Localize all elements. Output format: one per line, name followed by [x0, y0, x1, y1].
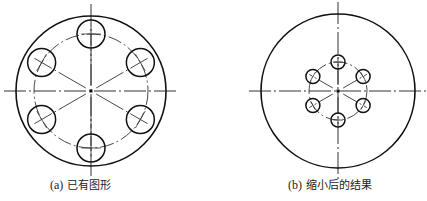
- hole-cross-mark: [361, 101, 366, 109]
- hole-cross-mark: [361, 72, 366, 80]
- center-point-marker: [90, 90, 93, 93]
- hole-cross-mark: [310, 72, 315, 80]
- caption-a-tag: (a): [50, 178, 63, 192]
- hole-cross-mark: [37, 54, 47, 71]
- radial-centerline: [34, 94, 85, 124]
- caption-b: (b) 缩小后的结果: [288, 176, 372, 193]
- caption-b-tag: (b): [288, 178, 302, 192]
- hole-cross-mark: [135, 111, 145, 128]
- figure-a-existing-shape: [4, 4, 178, 178]
- caption-a-text: 已有图形: [67, 179, 111, 192]
- hole-cross-mark: [310, 101, 315, 109]
- caption-a: (a) 已有图形: [50, 176, 111, 193]
- radial-centerline: [96, 94, 147, 124]
- hole-cross-mark: [37, 111, 47, 128]
- figure-b-scaled-result: [249, 2, 427, 180]
- hole-cross-mark: [135, 54, 145, 71]
- drawing-canvas: [0, 0, 427, 201]
- radial-centerline: [96, 58, 147, 88]
- caption-b-text: 缩小后的结果: [306, 179, 372, 192]
- radial-centerline: [34, 58, 85, 88]
- center-point-marker: [337, 90, 340, 93]
